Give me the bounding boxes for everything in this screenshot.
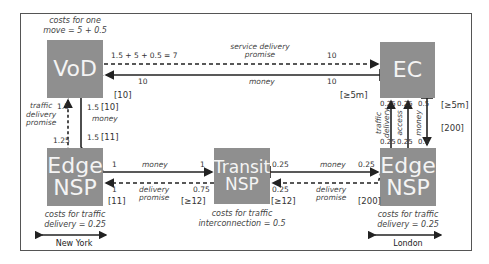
transit-label-2: NSP — [225, 176, 259, 193]
transit-london-money-label: money — [320, 161, 346, 169]
caption-line: interconnection = 0.5 — [195, 219, 289, 229]
london-transit-promise-bracket-left: [≥12] — [271, 196, 296, 206]
vod-edge-money-label: money — [92, 115, 118, 123]
edge-transit-money-value-right: 1 — [200, 161, 205, 169]
vod-node: VoD — [47, 40, 103, 98]
ec-vod-money-label: money — [249, 78, 275, 86]
label-line: promise — [316, 194, 346, 202]
ec-london-bracket-top: [≥5m] — [441, 100, 468, 110]
ec-node: EC — [380, 42, 435, 98]
label-line: promise — [26, 119, 56, 128]
caption-line: move = 5 + 0.5 — [40, 26, 110, 36]
vod-edge-promise-value-bottom: 1.25 — [53, 137, 70, 145]
ec-vod-money-value-right: 10 — [327, 78, 337, 86]
access-value-bottom: 0.25 — [397, 139, 413, 147]
transit-cost-caption: costs for traffic interconnection = 0.5 — [195, 209, 289, 228]
vod-ec-promise-label: service delivery promise — [220, 43, 300, 60]
edge-london-label-1: Edge — [380, 155, 435, 177]
transit-london-money-value-left: 0.25 — [272, 161, 289, 169]
caption-line: costs for traffic — [373, 210, 443, 220]
london-transit-promise-bracket-right: [200] — [358, 196, 381, 206]
ec-label: EC — [393, 59, 422, 81]
traffic-value-bottom: 0.25 — [380, 139, 396, 147]
vod-label: VoD — [53, 58, 97, 80]
ec-london-bracket-bottom: [200] — [441, 123, 464, 133]
london-transit-promise-value-left: 0.25 — [272, 186, 289, 194]
vod-cost-caption: costs for one move = 5 + 0.5 — [40, 16, 110, 35]
transit-edge-promise-value-right: 0.75 — [193, 186, 210, 194]
transit-edge-promise-bracket-right: [≥12] — [181, 196, 206, 206]
edge-ny-label-1: Edge — [47, 155, 102, 177]
transit-nsp-node: Transit NSP — [214, 148, 270, 204]
access-label: access — [396, 108, 404, 138]
money-vertical-label: money — [415, 108, 423, 138]
edge-nsp-new-york-node: Edge NSP — [47, 148, 103, 206]
city-london: London — [378, 239, 438, 248]
edge-london-label-2: NSP — [386, 177, 430, 199]
edge-ny-label-2: NSP — [53, 177, 97, 199]
edge-transit-money-label: money — [142, 161, 168, 169]
edge-transit-money-value-left: 1 — [112, 161, 117, 169]
edge-london-cost-caption: costs for traffic delivery = 0.25 — [373, 210, 443, 229]
transit-edge-promise-value-left: 1 — [112, 186, 117, 194]
transit-edge-promise-bracket-left: [11] — [108, 196, 125, 206]
vod-edge-promise-label: traffic delivery promise — [26, 102, 56, 128]
label-line: promise — [220, 51, 300, 59]
ec-vod-money-bracket-left: [10] — [114, 90, 131, 100]
caption-line: costs for one — [40, 16, 110, 26]
label-line: promise — [139, 194, 169, 202]
caption-line: costs for traffic — [195, 209, 289, 219]
money-value-bottom: 0.5 — [418, 139, 429, 147]
london-transit-promise-label: delivery promise — [316, 186, 346, 203]
vod-edge-money-value-bottom: 1.5 — [87, 134, 99, 142]
vod-edge-money-bracket-bottom: [11] — [101, 132, 118, 142]
transit-edge-promise-label: delivery promise — [139, 186, 169, 203]
ec-vod-money-bracket-right: [≥5m] — [340, 90, 367, 100]
city-new-york: New York — [44, 239, 104, 248]
label-line: delivery — [383, 108, 391, 138]
traffic-delivery-label: traffic delivery — [375, 108, 391, 138]
caption-line: delivery = 0.25 — [40, 220, 110, 230]
vod-edge-money-bracket-top: [10] — [101, 102, 118, 112]
caption-line: delivery = 0.25 — [373, 220, 443, 230]
vod-edge-money-value-top: 1.5 — [87, 104, 99, 112]
edge-ny-cost-caption: costs for traffic delivery = 0.25 — [40, 210, 110, 229]
vod-edge-promise-value-top: 1.5 — [57, 103, 69, 111]
caption-line: costs for traffic — [40, 210, 110, 220]
ec-vod-money-value-left: 10 — [138, 78, 148, 86]
vod-ec-promise-value-left: 1.5 + 5 + 0.5 = 7 — [111, 52, 178, 60]
vod-ec-promise-value-right: 10 — [327, 52, 337, 60]
edge-nsp-london-node: Edge NSP — [380, 148, 436, 206]
transit-london-money-value-right: 0.25 — [358, 161, 375, 169]
